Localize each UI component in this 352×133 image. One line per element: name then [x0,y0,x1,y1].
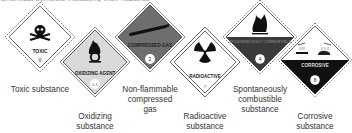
oxidizing-label: Oxidizing substance [65,112,125,132]
toxic-sign-text: TOXIC [32,48,48,54]
toxic-class-number: 6 [39,57,42,63]
oxidizing-class-number: 5.1 [92,82,99,87]
spontaneous-class-number: 4 [259,57,262,62]
corrosive-class-number: 8 [314,78,317,83]
compressed-gas-class-number: 2 [149,56,152,62]
compressed-gas-label: Non-flammable compressed gas [118,85,182,115]
radioactive-label: Radioactive substance [175,112,235,132]
corrosive-sign-text: CORROSIVE [301,63,329,68]
compressed-gas-sign-text: COMPRESSED GAS [128,43,172,48]
toxic-label: Toxic substance [10,85,70,95]
radioactive-sign-text: RADIOACTIVE [189,74,221,79]
spontaneous-sign-text: SPONTANEOUSLY COMBUSTIBLE [229,40,292,44]
corrosive-label: Corrosive substance [285,112,345,132]
oxidizing-sign-text: OXIDIZING AGENT [75,71,116,76]
spontaneous-label: Spontaneously combustible substance [226,85,294,115]
